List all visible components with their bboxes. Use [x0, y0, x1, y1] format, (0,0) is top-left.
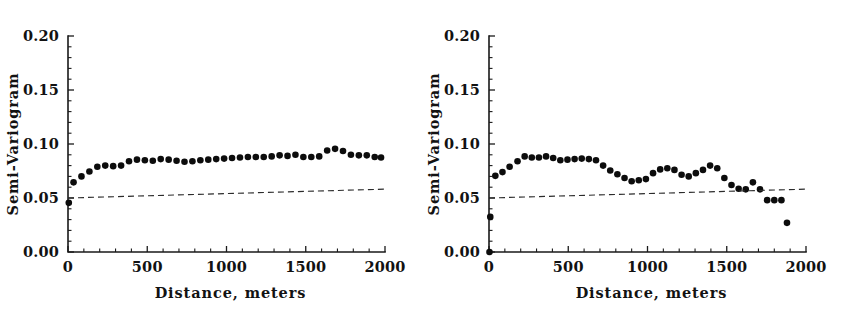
semi-variogram-plot-left: 05001000150020000.000.050.100.150.20Dist…: [0, 0, 420, 309]
data-point: [486, 249, 493, 256]
data-point: [292, 152, 299, 159]
data-point: [276, 152, 283, 159]
data-point: [784, 220, 791, 227]
x-tick-label: 0: [484, 258, 494, 275]
x-axis-title: Distance, meters: [155, 284, 307, 301]
y-tick-label: 0.20: [23, 27, 59, 44]
data-point: [173, 157, 180, 164]
data-point: [197, 157, 204, 164]
data-point: [571, 156, 578, 163]
data-point: [142, 157, 149, 164]
data-point: [621, 175, 628, 182]
data-point: [499, 169, 506, 176]
data-point: [764, 197, 771, 204]
data-point: [86, 168, 93, 175]
data-point: [628, 178, 635, 185]
data-point: [657, 166, 664, 173]
data-point: [245, 154, 252, 161]
y-tick-label: 0.05: [23, 189, 59, 206]
data-point: [529, 154, 536, 161]
x-tick-label: 1500: [706, 258, 747, 275]
data-point: [126, 158, 133, 165]
data-point: [340, 148, 347, 155]
axis-lines: [489, 36, 806, 252]
y-tick-label: 0.00: [23, 243, 59, 260]
x-tick-label: 2000: [364, 258, 405, 275]
data-point: [94, 163, 101, 170]
x-tick-label: 500: [132, 258, 163, 275]
data-point: [700, 167, 707, 174]
data-point: [778, 197, 785, 204]
x-tick-label: 500: [553, 258, 584, 275]
data-point: [356, 152, 363, 159]
data-point: [268, 153, 275, 160]
chart-panel-left: 05001000150020000.000.050.100.150.20Dist…: [0, 0, 420, 309]
data-point: [678, 171, 685, 178]
data-point: [607, 167, 614, 174]
axis-lines: [68, 36, 385, 252]
data-point: [221, 155, 228, 162]
x-axis-title: Distance, meters: [576, 284, 728, 301]
x-tick-label: 0: [63, 258, 73, 275]
plot-group-right: 05001000150020000.000.050.100.150.20Dist…: [425, 27, 827, 301]
data-point: [165, 156, 172, 163]
semi-variogram-plot-right: 05001000150020000.000.050.100.150.20Dist…: [421, 0, 841, 309]
data-point: [757, 186, 764, 193]
y-axis-title: Semi-Variogram: [4, 73, 21, 216]
y-tick-label: 0.15: [23, 81, 59, 98]
data-point: [578, 155, 585, 162]
y-tick-label: 0.20: [444, 27, 480, 44]
data-point: [363, 152, 370, 159]
data-point: [102, 162, 109, 169]
data-point: [506, 163, 513, 170]
data-point: [650, 170, 657, 177]
data-point: [714, 165, 721, 172]
data-point: [332, 146, 339, 153]
data-point: [728, 182, 735, 189]
model-dashed-line: [68, 189, 385, 198]
data-point: [213, 156, 220, 163]
data-point: [685, 173, 692, 180]
data-point: [205, 156, 212, 163]
data-point: [514, 158, 521, 165]
data-point: [284, 153, 291, 160]
data-point: [707, 162, 714, 169]
y-tick-label: 0.00: [444, 243, 480, 260]
data-point: [118, 162, 125, 169]
data-point: [586, 156, 593, 163]
data-point: [721, 175, 728, 182]
data-point: [229, 155, 236, 162]
x-tick-label: 1000: [627, 258, 668, 275]
data-point: [671, 167, 678, 174]
data-point: [65, 200, 72, 207]
data-point: [371, 154, 378, 161]
chart-panel-right: 05001000150020000.000.050.100.150.20Dist…: [421, 0, 841, 309]
data-point: [260, 154, 267, 161]
data-point: [348, 152, 355, 159]
data-point: [750, 179, 757, 186]
plot-group-left: 05001000150020000.000.050.100.150.20Dist…: [4, 27, 406, 301]
x-tick-label: 1000: [206, 258, 247, 275]
data-point: [693, 170, 700, 177]
data-point: [378, 154, 385, 161]
data-point: [564, 156, 571, 163]
data-point: [771, 197, 778, 204]
figure-page: 05001000150020000.000.050.100.150.20Dist…: [0, 0, 841, 309]
data-point: [635, 177, 642, 184]
data-point: [150, 157, 157, 164]
data-point: [308, 154, 315, 161]
data-point: [316, 153, 323, 160]
data-point: [600, 162, 607, 169]
data-point: [492, 173, 499, 180]
data-point: [324, 147, 331, 154]
data-point: [742, 186, 749, 193]
data-point: [487, 214, 494, 221]
y-tick-label: 0.05: [444, 189, 480, 206]
x-tick-label: 1500: [285, 258, 326, 275]
data-point: [521, 153, 528, 160]
x-tick-label: 2000: [785, 258, 826, 275]
data-point: [300, 154, 307, 161]
y-axis-title: Semi-Variogram: [425, 73, 442, 216]
data-point: [157, 156, 164, 163]
data-point: [110, 163, 117, 170]
